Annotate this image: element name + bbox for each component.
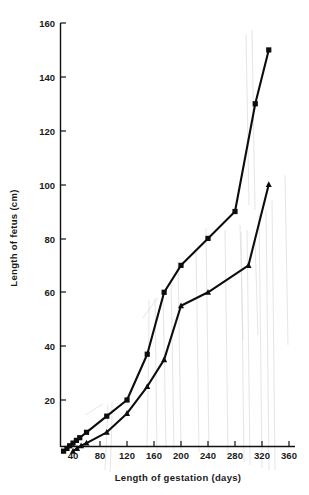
x-axis-tick-labels: 40 80 120 160 200 240 280 320 360 bbox=[68, 450, 297, 461]
data-point-square bbox=[205, 236, 210, 241]
data-point-square bbox=[124, 397, 129, 402]
y-axis-title: Length of fetus (cm) bbox=[8, 189, 19, 286]
series-square bbox=[61, 47, 271, 453]
data-point-square bbox=[104, 414, 109, 419]
data-point-square bbox=[162, 290, 167, 295]
x-tick-label: 280 bbox=[227, 450, 243, 461]
data-point-square bbox=[253, 101, 258, 106]
data-point-square bbox=[84, 430, 89, 435]
data-series-layer bbox=[61, 47, 272, 453]
data-point-square bbox=[178, 263, 183, 268]
y-axis-tick-labels: 160 140 120 100 80 60 40 20 bbox=[39, 18, 55, 406]
series-line-square bbox=[64, 50, 269, 451]
x-tick-label: 80 bbox=[95, 450, 106, 461]
x-tick-label: 160 bbox=[146, 450, 162, 461]
series-triangle bbox=[70, 181, 272, 453]
data-point-triangle bbox=[161, 356, 167, 362]
x-tick-label: 240 bbox=[200, 450, 216, 461]
chart-figure: 160 140 120 100 80 60 40 20 40 80 120 16… bbox=[0, 0, 309, 495]
chart-plot-area: 160 140 120 100 80 60 40 20 40 80 120 16… bbox=[0, 0, 309, 495]
data-point-square bbox=[77, 435, 82, 440]
data-point-square bbox=[232, 209, 237, 214]
data-point-triangle bbox=[266, 181, 272, 187]
data-point-square bbox=[266, 47, 271, 52]
y-tick-label: 80 bbox=[44, 234, 55, 245]
y-tick-label: 20 bbox=[44, 395, 55, 406]
x-tick-label: 320 bbox=[254, 450, 270, 461]
y-tick-label: 160 bbox=[39, 18, 55, 29]
y-tick-label: 40 bbox=[44, 341, 55, 352]
x-tick-label: 360 bbox=[281, 450, 297, 461]
x-axis-title: Length of gestation (days) bbox=[115, 472, 242, 483]
y-tick-label: 120 bbox=[39, 126, 55, 137]
data-point-square bbox=[145, 352, 150, 357]
y-tick-label: 60 bbox=[44, 287, 55, 298]
x-tick-label: 200 bbox=[173, 450, 189, 461]
data-point-triangle bbox=[246, 262, 252, 268]
y-tick-label: 140 bbox=[39, 72, 55, 83]
y-tick-label: 100 bbox=[39, 180, 55, 191]
series-line-triangle bbox=[73, 185, 269, 452]
x-tick-label: 120 bbox=[119, 450, 135, 461]
